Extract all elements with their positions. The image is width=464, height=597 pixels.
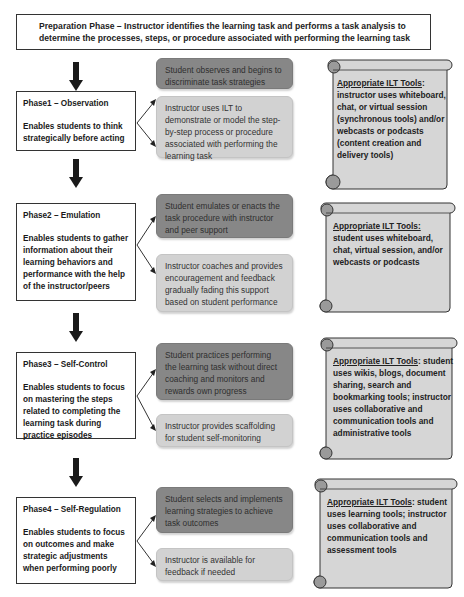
split-arrow-icon: [136, 98, 158, 148]
instructor-activity-text: Instructor uses ILT to demonstrate or mo…: [165, 103, 280, 161]
phase1-box: Phase1 – Observation Enables students to…: [16, 91, 136, 151]
preparation-phase-text: Preparation Phase – Instructor identifie…: [39, 21, 410, 43]
phase-description: Enables students to think strategically …: [23, 121, 129, 145]
instructor-activity-box: Instructor uses ILT to demonstrate or mo…: [156, 96, 293, 158]
phase3-box: Phase3 – Self-Control Enables students t…: [16, 352, 136, 439]
arrow-down-icon: [70, 458, 82, 488]
tools-heading: Appropriate ILT Tools: [333, 356, 418, 366]
preparation-phase-box: Preparation Phase – Instructor identifie…: [16, 14, 431, 50]
student-activity-box: Student selects and implements learning …: [156, 487, 293, 533]
student-activity-box: Student emulates or enacts the task proc…: [156, 194, 293, 238]
instructor-activity-text: Instructor coaches and provides encourag…: [165, 261, 283, 307]
tools-heading: Appropriate ILT Tools: [337, 78, 422, 88]
split-arrow-icon: [136, 368, 158, 432]
phase-title: Phase3 – Self-Control: [23, 359, 129, 371]
tools-heading: Appropriate ILT Tools: [327, 497, 412, 507]
phase2-box: Phase2 – Emulation Enables students to g…: [16, 203, 136, 301]
arrow-down-icon: [70, 159, 82, 189]
student-activity-text: Student selects and implements learning …: [165, 494, 283, 528]
instructor-activity-text: Instructor is available for feedback if …: [165, 555, 255, 577]
arrow-down-icon: [70, 62, 82, 92]
student-activity-box: Student observes and begins to discrimin…: [156, 58, 293, 89]
student-activity-text: Student practices performing the learnin…: [165, 350, 277, 396]
instructor-activity-box: Instructor is available for feedback if …: [156, 548, 293, 581]
ilt-tools-scroll: Appropriate ILT Tools: student uses lear…: [312, 474, 460, 590]
phase-description: Enables students to gather information a…: [23, 233, 129, 293]
phase-title: Phase1 – Observation: [23, 98, 129, 110]
phase-title: Phase2 – Emulation: [23, 210, 129, 222]
tools-heading: Appropriate ILT Tools:: [333, 221, 421, 231]
phase-description: Enables students to focus on mastering t…: [23, 382, 129, 442]
student-activity-text: Student observes and begins to discrimin…: [165, 65, 282, 87]
ilt-tools-scroll: Appropriate ILT Tools: student uses wiki…: [318, 333, 460, 461]
split-arrow-icon: [136, 514, 158, 568]
ilt-tools-scroll: Appropriate ILT Tools: student uses whit…: [318, 198, 458, 314]
tools-text: instructor uses whiteboard, chat, or vir…: [337, 90, 446, 160]
tools-text: student uses whiteboard, chat, virtual s…: [333, 233, 443, 267]
phase-description: Enables students to focus on outcomes an…: [23, 527, 129, 575]
phase4-box: Phase4 – Self-Regulation Enables student…: [16, 497, 136, 584]
instructor-activity-box: Instructor coaches and provides encourag…: [156, 254, 293, 312]
student-activity-box: Student practices performing the learnin…: [156, 343, 293, 400]
instructor-activity-text: Instructor provides scaffolding for stud…: [165, 421, 275, 443]
phase-title: Phase4 – Self-Regulation: [23, 504, 129, 516]
arrow-down-icon: [70, 313, 82, 343]
ilt-tools-scroll: Appropriate ILT Tools: instructor uses w…: [325, 55, 455, 191]
tools-text: student uses wikis, blogs, document shar…: [333, 356, 453, 438]
split-arrow-icon: [136, 215, 158, 275]
instructor-activity-box: Instructor provides scaffolding for stud…: [156, 414, 293, 447]
student-activity-text: Student emulates or enacts the task proc…: [165, 201, 280, 235]
